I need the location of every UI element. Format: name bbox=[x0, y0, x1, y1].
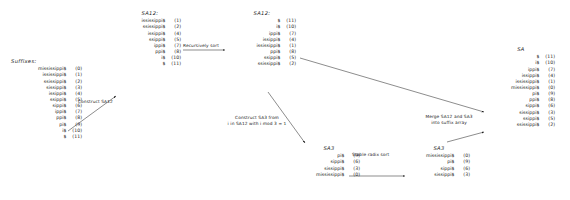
block-sa-title: SA bbox=[487, 46, 555, 52]
block-sa12-sorted-title: SA12: bbox=[228, 10, 296, 16]
block-sa12-unsorted-title: SA12: bbox=[119, 10, 181, 16]
label-stable-radix-sort: Stable radix sort bbox=[352, 152, 389, 158]
suffix-array-construction-diagram: Suffixes: mississippi$(0) ississippi$(1)… bbox=[0, 0, 570, 200]
list-item: $(11) bbox=[8, 134, 82, 140]
suffix-text: mississippi$ bbox=[316, 172, 345, 178]
block-sa3-unsorted-title: SA3 bbox=[298, 145, 360, 151]
label-construct-sa3-line2: i in SA12 with i mod 3 = 1 bbox=[214, 121, 300, 127]
block-sa3-unsorted: SA3 pi$(9) sippi$(6) sissippi$(3) missis… bbox=[298, 145, 360, 178]
suffix-index: (0) bbox=[345, 172, 361, 178]
arrow-merge-sa3-to-sa bbox=[447, 132, 484, 142]
suffix-index: (2) bbox=[281, 61, 297, 67]
label-construct-sa12: Construct SA12 bbox=[78, 99, 113, 105]
label-merge-into-suffix-array: Merge SA12 and SA3 into suffix array bbox=[408, 114, 490, 125]
label-recursively-sort: Recursively sort bbox=[183, 43, 219, 49]
arrow-merge-sa12-to-sa bbox=[300, 58, 484, 112]
block-sa12-sorted-rows: $(11) i$(10) ippi$(7) issippi$(4) ississ… bbox=[228, 18, 296, 67]
label-merge-line2: into suffix array bbox=[408, 120, 490, 126]
suffix-text: ssissippi$ bbox=[258, 61, 281, 67]
block-suffixes-title: Suffixes: bbox=[8, 58, 82, 64]
suffix-text: ssissippi$ bbox=[517, 122, 540, 128]
list-item: sissippi$(3) bbox=[408, 172, 470, 178]
label-construct-sa3: Construct SA3 from i in SA12 with i mod … bbox=[214, 115, 300, 126]
suffix-index: (3) bbox=[455, 172, 471, 178]
list-item: mississippi$(0) bbox=[298, 172, 360, 178]
block-suffixes-rows: mississippi$(0) ississippi$(1) ssissippi… bbox=[8, 66, 82, 140]
block-sa3-sorted: SA3 mississippi$(0) pi$(9) sippi$(6) sis… bbox=[408, 145, 470, 178]
block-sa: SA $(11) i$(10) ippi$(7) issippi$(4) iss… bbox=[487, 46, 555, 128]
suffix-text: sissippi$ bbox=[434, 172, 454, 178]
block-sa3-sorted-rows: mississippi$(0) pi$(9) sippi$(6) sissipp… bbox=[408, 153, 470, 178]
block-sa3-sorted-title: SA3 bbox=[408, 145, 470, 151]
block-sa-rows: $(11) i$(10) ippi$(7) issippi$(4) ississ… bbox=[487, 54, 555, 128]
list-item: ssissippi$(2) bbox=[487, 122, 555, 128]
block-sa12-unsorted: SA12: ississippi$(1) ssissippi$(2) issip… bbox=[119, 10, 181, 67]
block-sa12-unsorted-rows: ississippi$(1) ssissippi$(2) issippi$(4)… bbox=[119, 18, 181, 67]
list-item: ssissippi$(2) bbox=[228, 61, 296, 67]
block-sa12-sorted: SA12: $(11) i$(10) ippi$(7) issippi$(4) … bbox=[228, 10, 296, 67]
suffix-index: (11) bbox=[166, 61, 182, 67]
block-suffixes: Suffixes: mississippi$(0) ississippi$(1)… bbox=[8, 58, 82, 140]
block-sa3-unsorted-rows: pi$(9) sippi$(6) sissippi$(3) mississipp… bbox=[298, 153, 360, 178]
list-item: $(11) bbox=[119, 61, 181, 67]
suffix-index: (11) bbox=[67, 134, 83, 140]
suffix-index: (2) bbox=[540, 122, 556, 128]
